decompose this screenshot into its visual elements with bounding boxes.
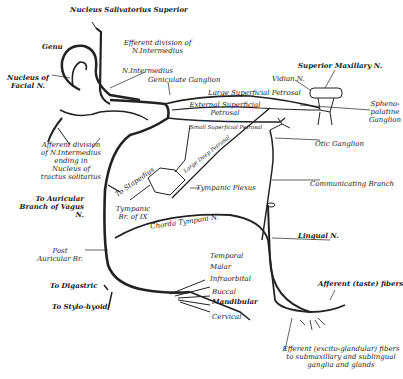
label-geniculate-ganglion: Geniculate Ganglion	[148, 76, 220, 84]
label-nucleus-facial: Nucleus of Facial N.	[2, 74, 54, 90]
label-large-superficial-petrosal: Large Superficial Petrosal	[208, 89, 301, 97]
label-malar: Malar	[210, 263, 231, 271]
label-n-intermedius: N.Intermedius	[122, 67, 173, 75]
label-to-stylohyoid: To Stylo-hyoid	[52, 303, 107, 311]
label-temporal: Temporal	[210, 252, 243, 260]
label-post-auricular: Post Auricular Br.	[36, 247, 84, 263]
label-tympanic-plexus: Tympanic Plexus	[196, 184, 256, 192]
label-tympanic-br: Tympanic Br. of IX	[110, 205, 156, 221]
label-superior-maxillary: Superior Maxillary N.	[298, 62, 382, 70]
label-afferent-taste: Afferent (taste) fibers	[318, 280, 403, 288]
label-spheno-palatine: Spheno-palatine Ganglion	[368, 100, 402, 124]
label-otic-ganglion: Otic Ganglion	[315, 140, 364, 148]
label-efferent-excito: Efferent (excito-glandular) fibers to su…	[282, 345, 400, 369]
label-cervical: Cervical	[212, 313, 241, 321]
label-infraorbital: Infraorbital	[210, 275, 251, 283]
label-small-superficial-petrosal: Small Superficial Petrosal	[190, 123, 262, 131]
label-genu: Genu	[42, 43, 63, 51]
label-efferent-division: Efferent division of N.Intermedius	[120, 39, 195, 55]
label-afferent-division: Afferent division of N.Intermedius endin…	[40, 141, 102, 181]
label-communicating-branch: Communicating Branch	[310, 180, 394, 188]
label-buccal: Buccal	[212, 288, 236, 296]
label-mandibular: Mandibular	[212, 298, 258, 306]
label-lingual: Lingual N.	[298, 232, 339, 240]
label-to-digastric: To Digastric	[50, 282, 97, 290]
label-to-auricular: To Auricular Branch of Vagus N.	[14, 195, 84, 219]
label-vidian: Vidian N.	[272, 75, 305, 83]
facial-nerve-diagram: Nucleus Salivatorius Superior Efferent d…	[0, 0, 403, 379]
label-external-superficial-petrosal: External Superficial Petrosal	[185, 101, 265, 117]
label-nucleus-salivatorius: Nucleus Salivatorius Superior	[70, 6, 188, 14]
